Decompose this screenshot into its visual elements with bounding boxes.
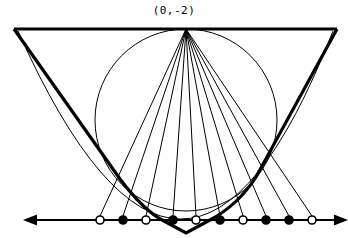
point-marker-filled-1[interactable] <box>119 216 127 224</box>
focal-ray-group <box>100 29 312 216</box>
point-marker-open-9[interactable] <box>308 216 316 224</box>
axis-arrow-right-icon <box>334 215 348 226</box>
point-marker-open-4[interactable] <box>192 216 200 224</box>
figure-canvas: (0,-2) <box>0 0 348 238</box>
point-marker-filled-8[interactable] <box>285 216 293 224</box>
number-line-axis <box>23 215 348 226</box>
point-marker-open-2[interactable] <box>142 216 150 224</box>
point-marker-open-6[interactable] <box>239 216 247 224</box>
focal-ray-7 <box>186 29 266 216</box>
point-marker-open-0[interactable] <box>96 216 104 224</box>
point-marker-filled-7[interactable] <box>262 216 270 224</box>
axis-arrow-left-icon <box>23 215 37 226</box>
point-marker-filled-3[interactable] <box>169 216 177 224</box>
point-marker-filled-5[interactable] <box>216 216 224 224</box>
focal-ray-0 <box>100 29 186 216</box>
focal-ray-8 <box>186 29 289 216</box>
focal-ray-1 <box>123 29 186 216</box>
geometry-diagram <box>0 0 348 238</box>
